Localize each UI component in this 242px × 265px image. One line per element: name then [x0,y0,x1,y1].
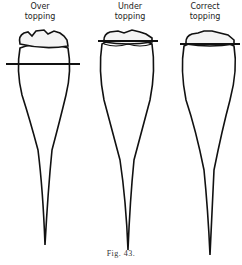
beet-over-topping [6,30,80,245]
figure-caption: Fig. 43. [0,249,242,258]
beet-illustrations [0,0,242,265]
beet-correct-topping [180,31,240,255]
beet-under-topping [98,30,158,250]
